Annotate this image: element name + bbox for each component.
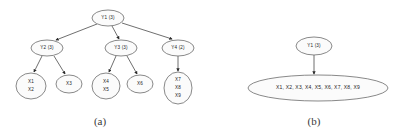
node-label: X5 [103, 87, 109, 92]
node-label: X6 [137, 81, 143, 86]
tree-edge [109, 56, 116, 72]
node-label: Y1 (3) [307, 43, 321, 48]
tree-node[interactable]: Y1 (3) [92, 10, 124, 26]
node-label: X1 [28, 79, 34, 84]
tree-node[interactable]: Y4 (2) [162, 40, 194, 56]
node-label: Y4 (2) [171, 45, 185, 50]
node-label: X4 [103, 79, 109, 84]
node-label: X1, X2, X3, X4, X5, X6, X7, X8, X9 [276, 84, 360, 90]
tree-edge [34, 56, 42, 72]
tree-node[interactable]: Y2 (3) [31, 40, 63, 56]
tree-edge [127, 56, 137, 74]
node-label: X9 [175, 93, 181, 98]
node-ellipse [92, 73, 120, 99]
tree-node[interactable]: X6 [127, 75, 153, 93]
tree-edge [112, 26, 119, 39]
nodes-layer: Y1 (3)Y2 (3)Y3 (3)Y4 (2)X1X2X3X4X5X6X7X8… [16, 10, 388, 104]
node-ellipse [16, 73, 46, 99]
tree-node[interactable]: Y1 (3) [296, 37, 332, 55]
captions-layer: (a)(b) [94, 115, 321, 128]
node-label: X8 [175, 85, 181, 90]
node-label: Y1 (3) [101, 15, 115, 20]
tree-edge [54, 56, 65, 74]
tree-node[interactable]: X1X2 [16, 73, 46, 99]
tree-node[interactable]: Y3 (3) [105, 40, 137, 56]
node-label: X7 [175, 77, 181, 82]
node-label: Y2 (3) [40, 45, 54, 50]
node-label: X2 [28, 87, 34, 92]
panel-caption: (b) [308, 115, 321, 128]
tree-node[interactable]: X7X8X9 [164, 72, 192, 104]
node-label: Y3 (3) [114, 45, 128, 50]
tree-diagram-svg: Y1 (3)Y2 (3)Y3 (3)Y4 (2)X1X2X3X4X5X6X7X8… [0, 0, 396, 137]
node-label: X3 [66, 81, 72, 86]
panel-caption: (a) [94, 115, 107, 128]
tree-node[interactable]: X3 [56, 75, 82, 93]
tree-edge [122, 23, 172, 39]
tree-node[interactable]: X4X5 [92, 73, 120, 99]
tree-node[interactable]: X1, X2, X3, X4, X5, X6, X7, X8, X9 [248, 75, 388, 101]
figure-container: Y1 (3)Y2 (3)Y3 (3)Y4 (2)X1X2X3X4X5X6X7X8… [0, 0, 396, 137]
tree-edge [56, 24, 97, 40]
